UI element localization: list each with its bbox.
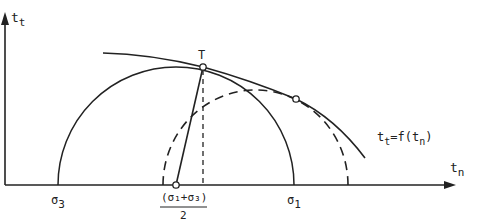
axes [5,20,448,185]
envelope-point [293,96,299,102]
center-point [173,182,179,188]
tangent-point-T [200,64,206,70]
sigma1-label: σ1 [287,193,301,211]
failure-envelope [103,53,365,158]
center-numerator-label: (σ₁+σ₃) [161,191,207,204]
y-axis-arrow-icon [1,12,9,25]
mohr-diagram: tt tn T σ3 σ1 (σ₁+σ₃) 2 tt=f(tn) [0,0,487,222]
envelope-label: tt=f(tn) [377,130,432,147]
radius-line [176,67,203,185]
center-denominator-label: 2 [180,209,187,222]
y-axis-label: tt [11,10,25,29]
x-axis-arrow-icon [444,181,456,189]
tangent-point-label: T [198,48,205,62]
sigma3-label: σ3 [51,193,65,211]
mohr-circle-dashed [163,90,348,185]
x-axis-label: tn [450,160,464,179]
